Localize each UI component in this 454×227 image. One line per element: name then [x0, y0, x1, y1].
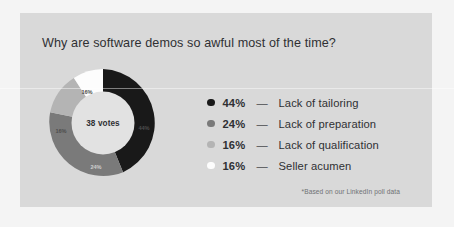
legend-percent: 16%: [223, 139, 257, 151]
legend-item-lack-of-tailoring[interactable]: 44% — Lack of tailoring: [207, 92, 427, 113]
legend-dot-icon: [207, 99, 215, 107]
legend-label: Lack of qualification: [279, 139, 428, 151]
poll-result-card: Why are software demos so awful most of …: [20, 13, 432, 207]
donut-center-total: 38 votes: [48, 68, 158, 178]
legend-percent: 16%: [223, 160, 257, 172]
legend-dash: —: [257, 97, 279, 109]
legend-item-lack-of-preparation[interactable]: 24% — Lack of preparation: [207, 113, 427, 134]
page-title: Why are software demos so awful most of …: [42, 36, 336, 50]
legend-item-lack-of-qualification[interactable]: 16% — Lack of qualification: [207, 134, 427, 155]
legend-dash: —: [257, 160, 279, 172]
legend-percent: 44%: [223, 97, 257, 109]
legend-label: Lack of preparation: [279, 118, 428, 130]
legend-item-seller-acumen[interactable]: 16% — Seller acumen: [207, 155, 427, 176]
legend-dash: —: [257, 118, 279, 130]
chart-legend: 44% — Lack of tailoring 24% — Lack of pr…: [207, 92, 427, 176]
chart-card-stage: Why are software demos so awful most of …: [0, 0, 454, 227]
legend-label: Lack of tailoring: [279, 97, 428, 109]
footnote-source: *Based on our LinkedIn poll data: [301, 188, 400, 195]
legend-dot-icon: [207, 120, 215, 128]
legend-percent: 24%: [223, 118, 257, 130]
donut-chart: 44% 24% 16% 16% 38 votes: [48, 68, 158, 178]
legend-dash: —: [257, 139, 279, 151]
legend-dot-icon: [207, 141, 215, 149]
legend-label: Seller acumen: [279, 160, 428, 172]
legend-dot-icon: [207, 162, 215, 170]
